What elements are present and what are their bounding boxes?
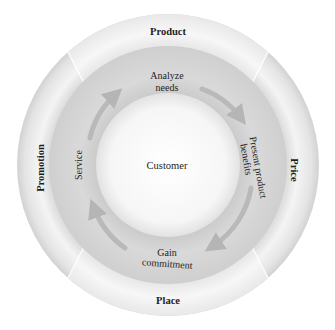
outer-label-product: Product bbox=[150, 26, 186, 37]
center-label-customer: Customer bbox=[147, 160, 188, 171]
step-label-line2: needs bbox=[156, 82, 179, 93]
diagram-canvas: Product Price Place Promotion Analyze ne… bbox=[0, 0, 335, 330]
step-label-line1: Gain bbox=[157, 247, 176, 258]
outer-label-price: Price bbox=[289, 158, 300, 182]
step-label-line1: Service bbox=[73, 149, 84, 180]
outer-label-place: Place bbox=[156, 295, 180, 306]
sales-cycle-diagram: Product Price Place Promotion Analyze ne… bbox=[0, 0, 335, 330]
outer-label-promotion: Promotion bbox=[35, 144, 46, 192]
step-label-line1: Analyze bbox=[150, 70, 184, 81]
step-service[interactable]: Service bbox=[73, 149, 84, 180]
